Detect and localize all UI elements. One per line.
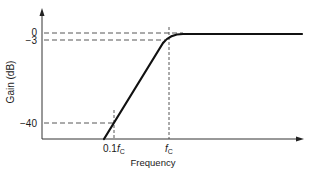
- y-axis: [40, 8, 45, 139]
- x-tick-fc-sub: C: [168, 148, 173, 155]
- y-tick-minus3: −3: [26, 35, 38, 46]
- y-axis-label: Gain (dB): [5, 61, 16, 104]
- x-tick-fc: fC: [165, 143, 173, 155]
- x-tick-tenth-fc-num: 0.1: [103, 143, 117, 154]
- x-axis-label: Frequency: [131, 157, 176, 168]
- y-axis-arrow-icon: [40, 8, 45, 16]
- y-tick-minus40: −40: [20, 118, 37, 129]
- svg-text:fC: fC: [165, 143, 173, 155]
- x-tick-tenth-fc-sub: C: [120, 148, 125, 155]
- x-axis: [42, 137, 304, 142]
- gain-frequency-diagram: 0 −3 −40 Gain (dB) 0.1fC fC Frequency: [0, 0, 309, 177]
- gain-curve: [104, 34, 302, 139]
- svg-text:0.1fC: 0.1fC: [103, 143, 125, 155]
- x-tick-tenth-fc: 0.1fC: [103, 143, 125, 155]
- x-axis-arrow-icon: [296, 137, 304, 142]
